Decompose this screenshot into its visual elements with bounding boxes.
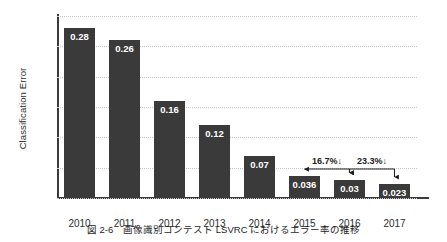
- figure-container: Classification Error 0.000.050.100.150.2…: [0, 0, 447, 242]
- annotation-label: 23.3%↓: [342, 156, 402, 166]
- annotation-arrows: [0, 0, 447, 242]
- figure-caption: 図 2-6 画像識別コンテスト LSVRC におけるエラー率の推移: [0, 222, 447, 236]
